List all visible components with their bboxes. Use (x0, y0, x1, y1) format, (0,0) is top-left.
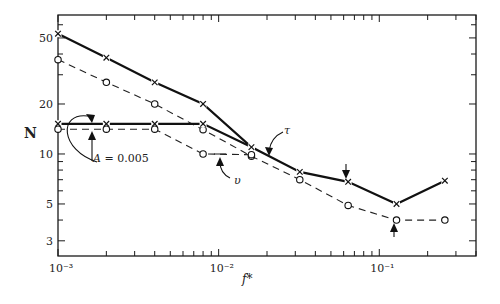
marker-x (248, 144, 255, 151)
marker-o (103, 79, 109, 85)
y-tick-label: 50 (39, 32, 53, 45)
marker-o (200, 127, 206, 133)
markers-group (55, 30, 449, 223)
y-tick-label: 5 (46, 198, 53, 211)
series-group (58, 34, 445, 220)
marker-o (55, 56, 61, 62)
marker-x (55, 30, 62, 37)
annotation-tau-label: τ (284, 124, 291, 137)
marker-x (200, 120, 207, 127)
annotation-upsilon: υ (214, 154, 241, 187)
annotation-a-arrowhead-bottom (88, 131, 96, 140)
marker-x (103, 54, 110, 61)
x-tick-label: 10⁻¹ (370, 262, 394, 275)
marker-o (442, 217, 448, 223)
annotation-a-text: A = 0.005 (92, 152, 149, 165)
marker-o (345, 202, 351, 208)
marker-x (151, 79, 158, 86)
axis-ticks (58, 15, 476, 256)
y-tick-label: 20 (39, 98, 53, 111)
axes-frame (58, 15, 476, 256)
series-line-0 (58, 34, 445, 204)
y-tick-label: 10 (39, 148, 53, 161)
marker-o (248, 152, 254, 158)
annotation-a-arrowhead-top (86, 114, 95, 123)
marker-o (297, 177, 303, 183)
annotation-tau: τ (265, 124, 291, 156)
x-tick-label: 10⁻² (210, 262, 234, 275)
marker-x (296, 168, 303, 175)
marker-o (393, 217, 399, 223)
marker-o (200, 151, 206, 157)
series-line-1 (58, 60, 445, 221)
arrow-upsilon-marker (390, 223, 398, 237)
marker-x (200, 100, 207, 107)
annotation-upsilon-arrowhead (216, 157, 224, 166)
x-axis-label: f* (241, 272, 252, 286)
arrow-tau-marker (342, 164, 350, 179)
marker-o (152, 126, 158, 132)
x-tick-label: 10⁻³ (49, 262, 73, 275)
y-tick-label: 3 (46, 235, 53, 248)
y-axis-label: N (24, 125, 37, 141)
plot-frame (58, 15, 476, 256)
marker-x (345, 178, 352, 185)
marker-o (152, 101, 158, 107)
marker-x (393, 200, 400, 207)
marker-x (441, 177, 448, 184)
marker-o (103, 126, 109, 132)
annotation-upsilon-label: υ (234, 174, 241, 187)
chart: 10⁻³10⁻²10⁻¹50201053 N f* A = 0.005 τ υ (0, 0, 500, 304)
arrow-up-head (390, 223, 398, 232)
marker-o (55, 126, 61, 132)
arrow-down-head (342, 170, 350, 179)
